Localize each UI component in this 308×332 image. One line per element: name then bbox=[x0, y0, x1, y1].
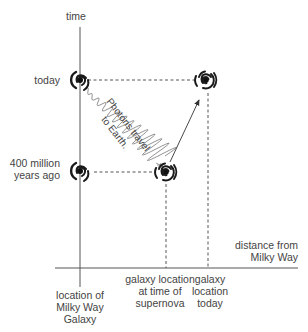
past-label-line1: 400 million bbox=[0, 157, 60, 169]
galaxy-supernova-icon bbox=[155, 164, 176, 181]
past-label-line2: years ago bbox=[0, 169, 60, 181]
milky-way-location-line1: location of bbox=[40, 289, 120, 301]
distance-axis-label-line2: Milky Way bbox=[210, 251, 298, 263]
milky-way-location-line3: Galaxy bbox=[40, 313, 120, 325]
today-location-line2: location bbox=[188, 285, 232, 297]
milky-way-location-line2: Milky Way bbox=[40, 301, 120, 313]
today-location-line3: today bbox=[188, 297, 232, 309]
today-label: today bbox=[20, 74, 60, 86]
today-location-line1: galaxy bbox=[188, 273, 232, 285]
galaxy-today-icon bbox=[195, 72, 216, 89]
time-axis-label: time bbox=[66, 10, 86, 22]
distance-axis-label-line1: distance from bbox=[210, 239, 298, 251]
expansion-arrow bbox=[170, 100, 199, 162]
